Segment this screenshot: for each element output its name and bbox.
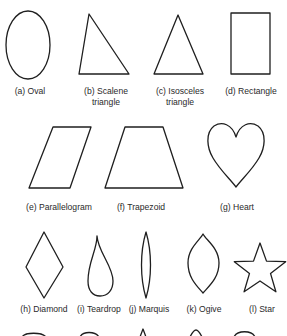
diamond-label: (h) Diamond (20, 304, 68, 314)
rectangle-label: (d) Rectangle (225, 86, 277, 96)
teardrop-label: (i) Teardrop (77, 304, 121, 314)
rectangle-shape (231, 13, 270, 74)
partial-spike-shape (140, 329, 146, 336)
scalene-triangle-label-line2: triangle (92, 97, 120, 107)
partial-arc-shape (234, 332, 255, 336)
oval-label: (a) Oval (15, 86, 46, 96)
trapezoid-label: (f) Trapezoid (117, 202, 165, 212)
ogive-label: (k) Ogive (187, 304, 222, 314)
isosceles-triangle-label-line1: (c) Isosceles (156, 86, 204, 96)
isosceles-triangle-shape (154, 15, 203, 74)
scalene-triangle-shape (79, 14, 129, 74)
partial-tip-shape (190, 330, 202, 336)
isosceles-triangle-label-line2: triangle (166, 97, 194, 107)
oval-shape (6, 11, 50, 79)
shapes-figure: (a) Oval (b) Scalene triangle (c) Isosce… (0, 0, 287, 336)
parallelogram-shape (29, 127, 91, 188)
heart-shape (208, 124, 264, 187)
star-label: (l) Star (249, 304, 275, 314)
diamond-shape (26, 232, 63, 298)
scalene-triangle-label-line1: (b) Scalene (84, 86, 128, 96)
marquis-shape (142, 232, 151, 298)
heart-label: (g) Heart (220, 202, 255, 212)
teardrop-shape (88, 236, 113, 296)
star-shape (234, 243, 285, 292)
parallelogram-label: (e) Parallelogram (26, 202, 92, 212)
partial-arc-shape (80, 333, 99, 336)
trapezoid-shape (105, 127, 183, 188)
marquis-label: (j) Marquis (129, 304, 170, 314)
ogive-shape (188, 234, 219, 293)
